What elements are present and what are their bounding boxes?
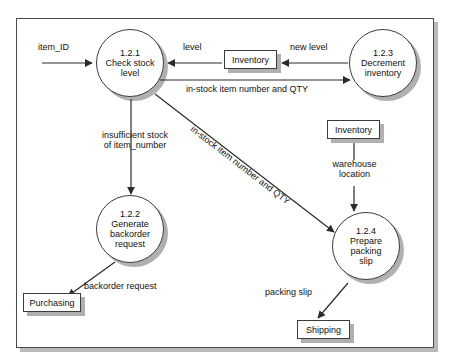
flow-label-new-level: new level: [290, 42, 328, 52]
process-label-124-line3: slip: [359, 256, 373, 266]
flow-label-warehouse-line2: location: [318, 169, 391, 179]
process-label-122-line1: Generate: [111, 219, 149, 229]
data-store-inventory-top[interactable]: Inventory: [224, 50, 277, 69]
process-label-121-line1: Check stock: [105, 58, 154, 68]
flow-label-backorder: backorder request: [84, 281, 157, 291]
process-decrement-inventory[interactable]: 1.2.3 Decrement inventory: [349, 29, 417, 97]
flow-label-packing-slip: packing slip: [265, 287, 312, 297]
data-store-inventory-right[interactable]: Inventory: [327, 120, 380, 139]
data-store-inventory-top-label: Inventory: [232, 55, 269, 65]
external-entity-purchasing[interactable]: Purchasing: [23, 293, 81, 312]
process-label-123-line2: inventory: [365, 68, 402, 78]
flow-label-insufficient-line2: of item_number: [60, 140, 210, 150]
process-label-122-line3: request: [115, 239, 145, 249]
process-label-122-line2: backorder: [110, 229, 150, 239]
external-entity-shipping[interactable]: Shipping: [297, 320, 350, 339]
process-label-121-line2: level: [121, 68, 140, 78]
flow-label-insufficient: insufficient stock of item_number: [60, 130, 210, 151]
process-label-124-line2: packing: [350, 246, 381, 256]
process-number-123: 1.2.3: [373, 48, 393, 58]
data-store-inventory-right-label: Inventory: [335, 125, 372, 135]
process-generate-backorder-request[interactable]: 1.2.2 Generate backorder request: [96, 195, 164, 263]
flow-label-item-id: item_ID: [38, 42, 69, 52]
process-number-122: 1.2.2: [120, 209, 140, 219]
flow-label-warehouse-line1: warehouse: [318, 159, 391, 169]
process-label-124-line1: Prepare: [350, 236, 382, 246]
process-label-123-line1: Decrement: [361, 58, 405, 68]
external-entity-shipping-label: Shipping: [306, 325, 341, 335]
flow-label-instock-top: in-stock item number and QTY: [186, 84, 308, 94]
process-prepare-packing-slip[interactable]: 1.2.4 Prepare packing slip: [332, 212, 400, 280]
flow-label-level: level: [183, 42, 202, 52]
external-entity-purchasing-label: Purchasing: [29, 298, 74, 308]
diagram-canvas: 1.2.1 Check stock level 1.2.3 Decrement …: [0, 0, 451, 364]
process-check-stock-level[interactable]: 1.2.1 Check stock level: [96, 29, 164, 97]
process-number-124: 1.2.4: [356, 226, 376, 236]
flow-label-warehouse: warehouse location: [318, 159, 391, 180]
process-number-121: 1.2.1: [120, 48, 140, 58]
